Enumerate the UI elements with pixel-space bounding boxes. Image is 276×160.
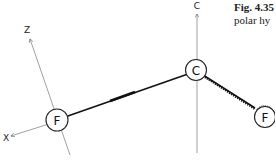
- c-axis-label: C: [194, 1, 200, 11]
- z-axis-label: Z: [24, 25, 30, 35]
- atom-carbon-center: C: [186, 60, 207, 81]
- caption-text: polar hy: [234, 14, 275, 27]
- figure-caption: Fig. 4.35 polar hy: [234, 1, 275, 27]
- atom-fluorine-right: F: [255, 106, 276, 128]
- atom-fluorine-left: F: [46, 109, 68, 131]
- bond-c-f-right: [203, 75, 255, 108]
- x-axis-label: X: [3, 133, 9, 143]
- z-axis: [30, 39, 70, 155]
- atom-label: F: [54, 114, 61, 128]
- bond-f-c-thick: [110, 92, 135, 101]
- atom-label: F: [262, 111, 269, 125]
- figure-number: Fig. 4.35: [234, 1, 274, 13]
- atom-label: C: [192, 64, 200, 78]
